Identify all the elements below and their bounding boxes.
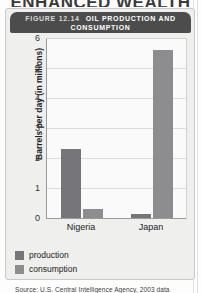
y-tick-label: 2 bbox=[24, 154, 40, 162]
bar-japan-consumption bbox=[153, 50, 173, 218]
y-tick-label: 3 bbox=[24, 124, 40, 132]
chart-legend: production consumption bbox=[15, 249, 77, 277]
x-tick-label: Japan bbox=[121, 222, 181, 232]
legend-swatch-consumption bbox=[15, 265, 24, 274]
figure-source: Source: U.S. Central Intelligence Agency… bbox=[15, 286, 170, 293]
figure-titlebar: FIGURE 12.14 OIL PRODUCTION AND CONSUMPT… bbox=[10, 12, 191, 33]
legend-item-consumption: consumption bbox=[15, 263, 77, 275]
bar-japan-production bbox=[131, 214, 151, 218]
page-heading: ENHANCED WEALTH bbox=[0, 0, 201, 7]
legend-label-consumption: consumption bbox=[29, 265, 77, 274]
page-edge-line bbox=[197, 0, 198, 293]
figure-title-line1: OIL PRODUCTION AND bbox=[86, 14, 176, 23]
page-root: ENHANCED WEALTH FIGURE 12.14 OIL PRODUCT… bbox=[0, 0, 201, 293]
y-tick-label: 4 bbox=[24, 94, 40, 102]
bar-nigeria-consumption bbox=[83, 209, 103, 218]
gridline bbox=[47, 38, 187, 39]
legend-label-production: production bbox=[29, 251, 69, 260]
x-tick-label: Nigeria bbox=[51, 222, 111, 232]
legend-swatch-production bbox=[15, 251, 24, 260]
figure-number: FIGURE 12.14 bbox=[25, 14, 79, 23]
chart-area: Barrels per day (in millions) 0123456 Ni… bbox=[10, 36, 191, 241]
y-tick-label: 1 bbox=[24, 184, 40, 192]
y-tick-label: 0 bbox=[24, 214, 40, 222]
legend-item-production: production bbox=[15, 249, 77, 261]
y-tick-label: 5 bbox=[24, 64, 40, 72]
y-tick-label: 6 bbox=[24, 34, 40, 42]
figure-title-line2: CONSUMPTION bbox=[10, 23, 191, 32]
plot-area bbox=[46, 38, 187, 219]
figure-card: FIGURE 12.14 OIL PRODUCTION AND CONSUMPT… bbox=[5, 8, 195, 280]
bar-nigeria-production bbox=[61, 149, 81, 218]
